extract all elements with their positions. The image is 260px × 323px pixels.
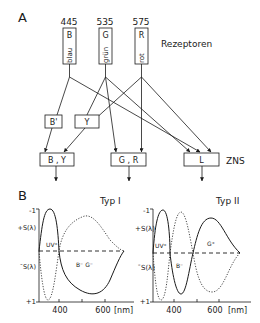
figure: A 445 535 575 B G R blau grün rot Rezept… [0,0,260,323]
plot-2-title: Typ II [215,196,239,206]
plot-typ-2: Typ II -1 +1 +S(λ) ¯S(λ) UV⁺ B⁻ G⁺ 400 6… [135,196,251,315]
receptor-name-gruen: grün [102,47,110,63]
plot-1-x-tick-400: 400 [52,306,67,315]
output-label-gr: G , R [119,156,139,165]
receptors-label: Rezeptoren [161,39,212,49]
wavelength-535: 535 [96,17,113,27]
plot-1-y-bottom: +1 [26,298,36,306]
plot-2-annotation-b: B⁻ [176,262,183,269]
output-label-by: B , Y [48,156,66,165]
plot-1-title: Typ I [99,196,121,206]
plot-1-y-label-minus: ¯S(λ) [20,263,36,271]
wavelength-445: 445 [60,17,77,27]
receptor-name-rot: rot [138,53,146,63]
plot-2-y-top: -1 [143,207,150,215]
plot-typ-1: Typ I -1 +1 +S(λ) ¯S(λ) UV⁺ B⁻ G⁻ 400 60… [18,196,135,315]
intermediate-label-b-prime: B' [50,118,58,127]
plot-2-annotation-uv: UV⁺ [155,242,167,249]
plot-2-annotation-g: G⁺ [207,240,215,247]
receptor-name-blau: blau [66,48,74,63]
plot-1-y-label-plus: +S(λ) [18,224,37,232]
plot-2-x-tick-600: 600 [207,306,222,315]
plot-1-annotation-bg: B⁻ G⁻ [76,261,93,268]
plot-1-x-unit: [nm] [114,306,133,315]
plot-2-x-tick-400: 400 [166,306,181,315]
receptor-letter-b: B [67,31,73,40]
receptor-letter-r: R [139,31,145,40]
receptor-letter-g: G [102,31,108,40]
plot-2-x-unit: [nm] [228,306,247,315]
wavelength-575: 575 [132,17,149,27]
zns-label: ZNS [226,156,245,166]
plot-2-y-label-minus: ¯S(λ) [137,264,155,272]
plot-2-y-bottom: +1 [140,298,150,306]
plot-1-y-top: -1 [29,207,36,215]
panel-a-label: A [18,10,27,25]
panel-b-label: B [18,188,27,203]
intermediate-label-y: Y [84,118,90,127]
plot-1-annotation-uv: UV⁺ [46,241,58,248]
output-label-l: L [199,156,204,165]
plot-1-x-tick-600: 600 [95,306,110,315]
plot-2-y-label-plus: +S(λ) [135,225,155,233]
